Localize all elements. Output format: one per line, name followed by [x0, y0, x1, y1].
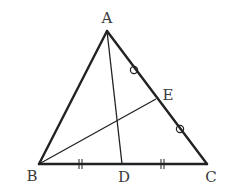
label-a: A [101, 9, 113, 27]
median-ad [107, 31, 122, 164]
triangle-diagram: A B C D E [0, 0, 236, 193]
label-e: E [163, 86, 174, 104]
side-ab [39, 31, 107, 164]
label-d: D [118, 168, 130, 186]
side-ac [107, 31, 207, 164]
label-b: B [26, 167, 37, 185]
label-c: C [205, 168, 216, 186]
